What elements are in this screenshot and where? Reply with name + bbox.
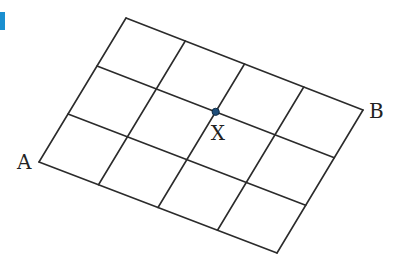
grid-line-vertical: [158, 64, 245, 208]
label-b: B: [369, 99, 384, 123]
grid-line-horizontal: [39, 162, 277, 253]
grid-line-vertical: [277, 110, 363, 253]
grid-line-horizontal: [126, 18, 363, 110]
grid-line-vertical: [218, 87, 304, 230]
grid-diagram: A B X: [0, 0, 399, 262]
grid-line-vertical: [39, 18, 126, 162]
grid-line-vertical: [99, 41, 186, 185]
point-x-dot: [212, 108, 219, 115]
parallelogram-grid: [39, 18, 363, 253]
grid-line-horizontal: [68, 114, 306, 205]
label-x: X: [211, 121, 226, 145]
label-a: A: [16, 150, 32, 174]
